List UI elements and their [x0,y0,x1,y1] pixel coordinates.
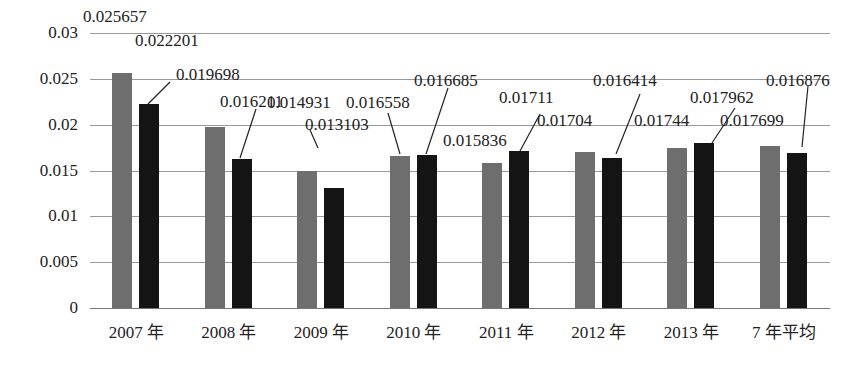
leader-line [148,82,170,104]
bar-chart: 00.0050.010.0150.020.0250.03 0.0256570.0… [0,0,864,366]
x-tick-label: 2008 年 [201,318,256,343]
x-tick-label: 2009 年 [294,318,349,343]
data-label: 0.016414 [593,72,657,89]
data-label: 0.01704 [537,112,592,129]
x-tick-label: 2011 年 [479,318,534,343]
data-label: 0.01744 [634,112,689,129]
data-label: 0.016876 [766,72,830,89]
x-tick-label: 2013 年 [664,318,719,343]
x-tick-label: 2010 年 [386,318,441,343]
leader-line [240,109,256,158]
leader-line [388,113,400,154]
data-label: 0.01711 [499,89,554,106]
data-label: 0.014931 [267,94,331,111]
data-label: 0.025657 [83,8,147,25]
data-label: 0.016558 [346,94,410,111]
x-tick-label: 2012 年 [571,318,626,343]
data-label: 0.019698 [176,66,240,83]
x-tick-label: 7 年平均 [752,318,816,343]
data-label: 0.022201 [135,32,199,49]
data-label: 0.017699 [720,112,784,129]
data-label: 0.013103 [305,116,369,133]
leader-line [802,86,808,147]
data-label: 0.017962 [690,89,754,106]
label-leader-lines [0,0,864,366]
x-tick-label: 2007 年 [109,318,164,343]
data-label: 0.015836 [443,132,507,149]
data-label: 0.016685 [414,72,478,89]
